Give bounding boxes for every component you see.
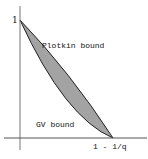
y-tick-label: 1 <box>12 15 18 25</box>
x-tick-label: 1 - 1/q <box>93 142 127 151</box>
plotkin-bound-label: Plotkin bound <box>42 41 105 50</box>
bounds-chart: 1 1 - 1/q Plotkin bound GV bound <box>0 0 148 159</box>
gv-bound-label: GV bound <box>36 120 75 129</box>
